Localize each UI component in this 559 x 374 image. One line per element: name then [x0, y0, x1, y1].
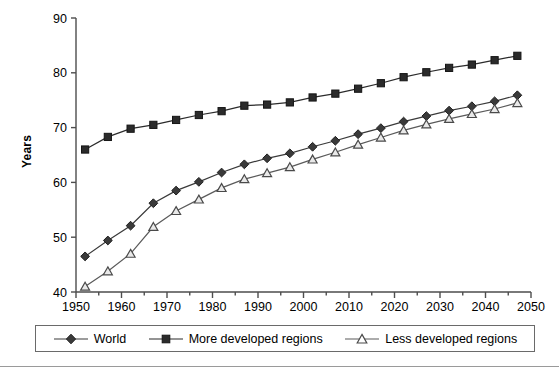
- x-tick-label: 1980: [199, 300, 227, 314]
- chart-figure: 405060708090 195019601970198019902000201…: [0, 0, 559, 374]
- legend-item-world[interactable]: World: [53, 332, 126, 346]
- marker-triangle: [376, 133, 385, 141]
- marker-triangle: [513, 99, 522, 107]
- marker-triangle: [217, 184, 226, 192]
- y-tick-label: 70: [53, 121, 67, 135]
- chart-legend: World More developed regions Less develo…: [35, 325, 535, 352]
- data-series-layer: [81, 52, 522, 290]
- marker-diamond: [376, 124, 385, 133]
- x-axis-tick-labels: 1950196019701980199020002010202020302040…: [62, 300, 545, 314]
- y-axis-ticks: [71, 18, 76, 292]
- series-more-developed-regions: [82, 52, 521, 153]
- marker-square: [355, 85, 362, 92]
- marker-triangle: [81, 282, 90, 290]
- marker-diamond: [354, 130, 363, 139]
- x-tick-label: 1960: [108, 300, 136, 314]
- legend-item-less-developed-regions[interactable]: Less developed regions: [344, 332, 517, 346]
- y-tick-label: 40: [53, 286, 67, 300]
- marker-triangle: [354, 140, 363, 148]
- series-line: [85, 103, 517, 287]
- marker-diamond: [399, 117, 408, 126]
- x-tick-label: 2050: [517, 300, 545, 314]
- legend-label-world: World: [94, 332, 126, 346]
- x-axis-ticks: [76, 292, 531, 298]
- y-axis-title: Years: [20, 135, 34, 168]
- series-less-developed-regions: [81, 99, 522, 290]
- marker-diamond: [285, 149, 294, 158]
- legend-item-more-developed-regions[interactable]: More developed regions: [148, 332, 323, 346]
- marker-diamond: [263, 154, 272, 163]
- marker-square: [173, 116, 180, 123]
- marker-square: [377, 80, 384, 87]
- x-tick-label: 2010: [335, 300, 363, 314]
- x-tick-label: 1990: [244, 300, 272, 314]
- marker-square: [400, 74, 407, 81]
- y-axis-tick-labels: 405060708090: [53, 12, 67, 300]
- marker-square: [446, 64, 453, 71]
- marker-square: [491, 57, 498, 64]
- marker-diamond: [217, 168, 226, 177]
- marker-triangle: [285, 163, 294, 171]
- marker-square: [127, 125, 134, 132]
- marker-square: [150, 121, 157, 128]
- marker-diamond: [308, 142, 317, 151]
- marker-diamond: [81, 252, 90, 261]
- marker-diamond: [331, 136, 340, 145]
- marker-triangle: [149, 222, 158, 230]
- marker-square: [332, 90, 339, 97]
- x-tick-label: 2030: [426, 300, 454, 314]
- marker-diamond: [194, 177, 203, 186]
- marker-diamond: [240, 160, 249, 169]
- marker-triangle: [172, 207, 181, 215]
- line-chart-plot: 405060708090 195019601970198019902000201…: [0, 0, 559, 374]
- legend-marker-square-icon: [148, 332, 184, 346]
- x-tick-label: 1950: [62, 300, 90, 314]
- axis-lines: [76, 18, 531, 292]
- x-tick-label: 1970: [153, 300, 181, 314]
- x-tick-label: 2040: [472, 300, 500, 314]
- legend-marker-diamond-icon: [53, 332, 89, 346]
- y-tick-label: 50: [53, 231, 67, 245]
- legend-label-less-developed-regions: Less developed regions: [385, 332, 517, 346]
- marker-square: [423, 69, 430, 76]
- marker-square: [468, 61, 475, 68]
- marker-diamond: [103, 236, 112, 245]
- marker-square: [195, 111, 202, 118]
- marker-diamond: [172, 186, 181, 195]
- marker-triangle: [331, 148, 340, 156]
- y-tick-label: 80: [53, 66, 67, 80]
- y-tick-label: 90: [53, 12, 67, 26]
- y-tick-label: 60: [53, 176, 67, 190]
- page-divider-rule: [0, 366, 559, 367]
- marker-square: [218, 108, 225, 115]
- x-tick-label: 2020: [381, 300, 409, 314]
- marker-square: [286, 99, 293, 106]
- marker-square: [309, 94, 316, 101]
- legend-marker-triangle-icon: [344, 332, 380, 346]
- marker-triangle: [194, 195, 203, 203]
- marker-square: [241, 102, 248, 109]
- marker-square: [264, 101, 271, 108]
- marker-triangle: [308, 155, 317, 163]
- marker-square: [82, 146, 89, 153]
- x-tick-label: 2000: [290, 300, 318, 314]
- legend-label-more-developed-regions: More developed regions: [189, 332, 323, 346]
- marker-square: [514, 52, 521, 59]
- marker-square: [104, 133, 111, 140]
